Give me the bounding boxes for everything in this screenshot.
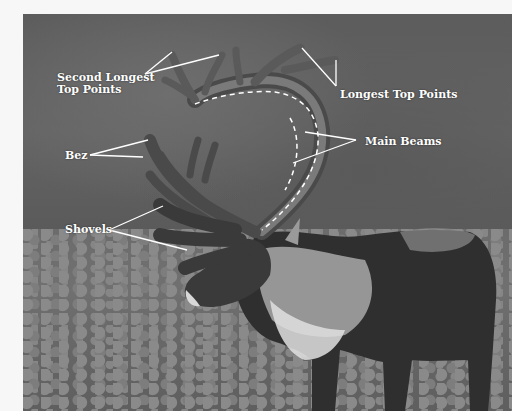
label-main-beams: Main Beams [365,136,442,148]
label-second-longest-top-points: Second Longest Top Points [57,72,155,96]
label-line-2: Top Points [57,84,155,96]
label-bez: Bez [65,150,88,162]
caribou-illustration [0,0,512,411]
label-longest-top-points: Longest Top Points [340,89,457,101]
label-shovels: Shovels [65,224,112,236]
